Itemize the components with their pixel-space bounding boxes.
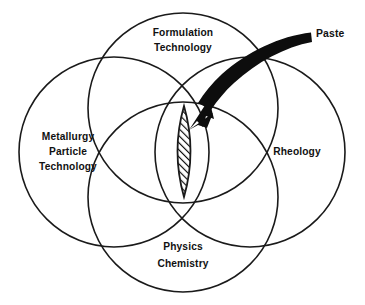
lens-hatched-fill <box>178 106 191 197</box>
label-paste-callout: Paste <box>316 28 345 39</box>
label-formulation-technology: Formulation Technology <box>153 27 214 53</box>
label-rheology: Rheology <box>273 146 321 157</box>
label-formulation-line1: Formulation <box>153 27 214 38</box>
label-metallurgy-line3: Technology <box>39 161 97 172</box>
arrow-shaft <box>198 33 312 111</box>
label-chemistry-line2: Chemistry <box>157 258 208 269</box>
venn-diagram-canvas: Formulation Technology Metallurgy Partic… <box>0 0 365 305</box>
venn-diagram-container: Formulation Technology Metallurgy Partic… <box>0 0 365 305</box>
label-physics-line1: Physics <box>163 241 203 252</box>
label-rheology-line1: Rheology <box>273 146 321 157</box>
label-formulation-line2: Technology <box>154 42 212 53</box>
label-metallurgy-particle-technology: Metallurgy Particle Technology <box>39 131 97 172</box>
label-metallurgy-line1: Metallurgy <box>42 131 95 142</box>
intersection-lens-paste <box>178 106 191 197</box>
label-metallurgy-line2: Particle <box>49 146 87 157</box>
label-physics-chemistry: Physics Chemistry <box>157 241 208 269</box>
